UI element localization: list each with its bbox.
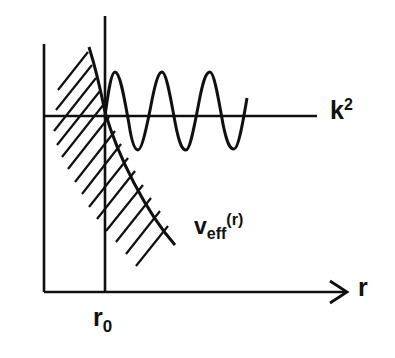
oscillating-wavefunction xyxy=(105,72,247,150)
figure-container: k2 r r0 veff(r) xyxy=(0,0,395,358)
k-squared-exponent: 2 xyxy=(344,96,353,113)
hatch-line xyxy=(116,198,151,242)
r-zero-label: r0 xyxy=(93,305,112,335)
hatch-line xyxy=(82,144,121,194)
veff-label: veff(r) xyxy=(194,212,243,242)
hatch-line xyxy=(126,211,160,254)
veff-superscript: (r) xyxy=(226,211,243,228)
hatch-line xyxy=(75,131,115,182)
hatch-line xyxy=(136,226,168,266)
hatch-line xyxy=(97,171,135,219)
hatch-line xyxy=(58,52,88,90)
figure-canvas xyxy=(0,0,395,358)
hatch-line xyxy=(89,158,128,207)
r-zero-subscript: 0 xyxy=(103,317,112,336)
k-squared-label: k2 xyxy=(330,97,353,123)
k-squared-base: k xyxy=(330,96,344,124)
veff-subscript: eff xyxy=(207,225,227,242)
veff-base: v xyxy=(194,213,207,239)
hatch-line xyxy=(56,65,92,110)
hatch-line xyxy=(106,185,143,231)
r-axis-label: r xyxy=(358,275,368,300)
r-zero-base: r xyxy=(93,303,103,331)
